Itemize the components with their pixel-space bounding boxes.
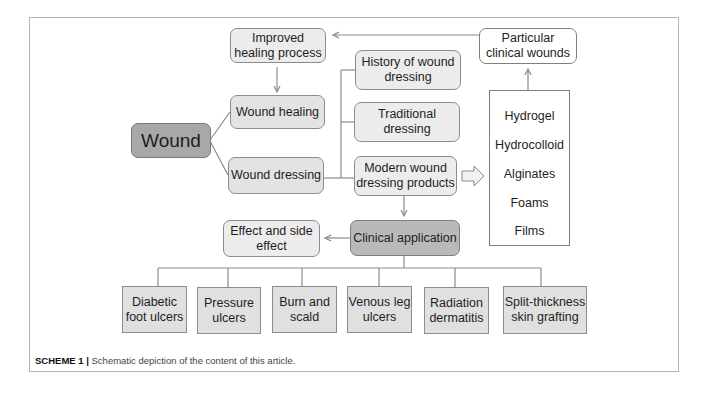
node-label: Split-thickness — [505, 295, 586, 310]
node-label: Pressure — [204, 296, 254, 311]
node-particular-clinical-wounds: Particular clinical wounds — [479, 28, 577, 64]
node-improved-healing-process: Improved healing process — [230, 28, 326, 63]
node-label: clinical wounds — [486, 46, 570, 61]
node-modern-wound-dressing-products: Modern wound dressing products — [354, 156, 457, 196]
node-label: scald — [290, 310, 319, 325]
node-label: dressing — [383, 122, 430, 137]
node-label: Traditional — [378, 107, 436, 122]
node-venous-leg-ulcers: Venous leg ulcers — [347, 286, 412, 333]
node-label: Wound — [141, 133, 201, 148]
node-label: dressing products — [356, 176, 455, 191]
node-label: dermatitis — [429, 311, 483, 326]
node-label: Wound dressing — [231, 168, 321, 183]
node-label: dressing — [384, 70, 431, 85]
node-label: Wound healing — [236, 105, 319, 120]
node-label: Venous leg — [349, 295, 411, 310]
node-effect-and-side-effect: Effect and side effect — [223, 220, 320, 257]
node-split-thickness-skin-grafting: Split-thickness skin grafting — [503, 286, 587, 334]
node-label: ulcers — [363, 310, 396, 325]
node-pressure-ulcers: Pressure ulcers — [197, 287, 261, 334]
connector-lines — [0, 0, 708, 394]
node-radiation-dermatitis: Radiation dermatitis — [424, 287, 489, 334]
caption-label: SCHEME 1 | — [35, 355, 89, 366]
list-item: Films — [490, 224, 569, 238]
node-label: Improved — [252, 31, 304, 46]
node-label: Diabetic — [132, 295, 177, 310]
node-burn-and-scald: Burn and scald — [272, 286, 337, 333]
node-wound-healing: Wound healing — [230, 95, 325, 129]
node-wound-root: Wound — [131, 123, 211, 158]
list-item: Alginates — [490, 167, 569, 181]
node-traditional-dressing: Traditional dressing — [354, 102, 460, 142]
node-label: Burn and — [279, 295, 330, 310]
node-label: Effect and side — [230, 224, 312, 239]
node-label: ulcers — [212, 311, 245, 326]
node-label: Clinical application — [353, 231, 457, 246]
node-label: Modern wound — [364, 161, 447, 176]
node-label: skin grafting — [511, 310, 578, 325]
node-label: healing process — [234, 46, 322, 61]
node-label: Particular — [502, 31, 555, 46]
list-item: Hydrocolloid — [490, 138, 569, 152]
node-label: foot ulcers — [126, 310, 184, 325]
node-wound-dressing: Wound dressing — [228, 157, 324, 194]
figure-caption: SCHEME 1 | Schematic depiction of the co… — [35, 355, 295, 366]
node-clinical-application: Clinical application — [350, 220, 460, 256]
node-label: effect — [256, 239, 286, 254]
dressing-types-list: Hydrogel Hydrocolloid Alginates Foams Fi… — [489, 90, 570, 246]
list-item: Hydrogel — [490, 109, 569, 123]
list-item: Foams — [490, 196, 569, 210]
node-label: Radiation — [430, 296, 483, 311]
node-label: History of wound — [361, 55, 454, 70]
node-diabetic-foot-ulcers: Diabetic foot ulcers — [122, 286, 187, 333]
caption-text: Schematic depiction of the content of th… — [89, 355, 295, 366]
node-history-of-wound-dressing: History of wound dressing — [355, 50, 461, 90]
